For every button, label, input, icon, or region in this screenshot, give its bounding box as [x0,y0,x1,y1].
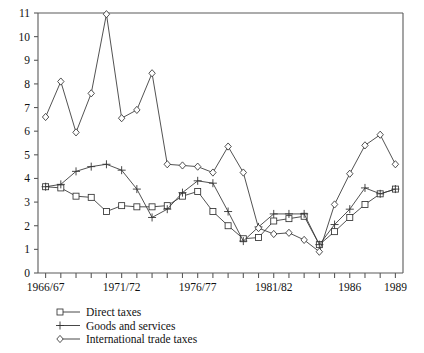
chart-legend: Direct taxesGoods and servicesInternatio… [56,306,198,345]
data-point-marker [271,218,277,224]
legend-label: Goods and services [86,320,176,332]
data-point-marker [88,90,94,97]
y-axis-tick-label: 5 [24,149,30,161]
data-point-marker [332,229,338,235]
y-axis-tick-label: 11 [19,7,30,19]
legend-item-direct-taxes: Direct taxes [57,306,142,318]
legend-item-international-trade-taxes: International trade taxes [57,333,198,345]
data-point-marker [134,204,140,210]
y-axis-tick-label: 4 [24,172,30,184]
data-point-marker [73,193,79,199]
data-point-marker [347,170,353,177]
x-axis-tick-label: 1976/77 [179,281,217,293]
data-point-marker [331,201,337,208]
data-point-marker [134,106,140,113]
data-point-marker [225,223,231,229]
y-axis: 01234567891011 [19,7,404,279]
data-point-marker [149,204,155,210]
y-axis-tick-label: 10 [19,31,31,43]
tax-revenue-line-chart: 01234567891011 1966/671971/721976/771981… [0,0,424,353]
data-point-marker [164,161,170,168]
x-axis: 1966/671971/721976/771981/8219861989 [27,13,407,293]
data-point-marker [210,209,216,215]
legend-marker-icon [57,309,63,315]
y-axis-tick-label: 1 [24,243,30,255]
chart-container: 01234567891011 1966/671971/721976/771981… [0,0,424,353]
data-point-marker [103,209,109,215]
x-axis-tick-label: 1971/72 [103,281,141,293]
series-polyline [46,164,396,244]
data-point-marker [271,230,277,237]
y-axis-tick-label: 6 [24,125,30,137]
y-axis-tick-label: 7 [24,102,30,114]
y-axis-tick-label: 0 [24,267,30,279]
legend-label: Direct taxes [86,306,142,318]
x-axis-tick-label: 1981/82 [255,281,293,293]
data-point-marker [58,78,64,85]
data-point-marker [194,163,200,170]
data-point-marker [347,214,353,220]
data-point-marker [73,129,79,136]
data-point-marker [195,188,201,194]
data-point-marker [119,203,125,209]
series-layer [42,11,400,256]
y-axis-tick-label: 8 [24,78,30,90]
y-axis-tick-label: 2 [24,220,30,232]
data-point-marker [149,70,155,77]
data-point-marker [255,224,261,231]
data-point-marker [362,142,368,149]
series-goods-and-services [42,160,400,248]
legend-label: International trade taxes [86,333,198,345]
legend-marker-icon [57,335,63,342]
x-axis-tick-label: 1989 [384,281,407,293]
data-point-marker [240,169,246,176]
series-direct-taxes [43,184,399,248]
x-axis-tick-label: 1986 [338,281,361,293]
data-point-marker [301,236,307,243]
data-point-marker [316,248,322,255]
data-point-marker [286,229,292,236]
data-point-marker [103,11,109,18]
data-point-marker [118,115,124,122]
y-axis-tick-label: 9 [24,54,30,66]
x-axis-tick-label: 1966/67 [27,281,65,293]
data-point-marker [225,143,231,150]
data-point-marker [179,162,185,169]
data-point-marker [377,131,383,138]
legend-item-goods-and-services: Goods and services [56,320,176,332]
data-point-marker [362,201,368,207]
y-axis-tick-label: 3 [24,196,30,208]
data-point-marker [88,194,94,200]
data-point-marker [256,235,262,241]
data-point-marker [42,113,48,120]
data-point-marker [392,161,398,168]
data-point-marker [210,169,216,176]
